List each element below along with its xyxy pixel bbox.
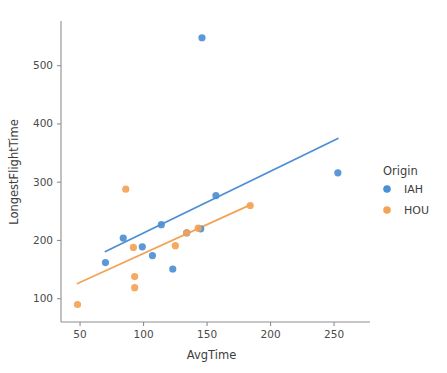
y-tick-label: 200 xyxy=(33,234,53,246)
y-tick-label: 400 xyxy=(33,117,53,129)
data-point-hou xyxy=(122,186,129,193)
y-axis-ticks: 100200300400500 xyxy=(33,59,61,304)
y-axis-label: LongestFlightTime xyxy=(7,119,21,225)
data-point-iah xyxy=(149,252,156,259)
y-tick-label: 100 xyxy=(33,292,53,304)
data-point-hou xyxy=(74,301,81,308)
x-tick-label: 200 xyxy=(261,328,281,340)
y-tick-label: 500 xyxy=(33,59,53,71)
data-point-hou xyxy=(130,244,137,251)
data-point-iah xyxy=(198,34,205,41)
legend: Origin IAHHOU xyxy=(383,164,429,217)
data-point-iah xyxy=(139,243,146,250)
data-point-hou xyxy=(131,273,138,280)
legend-label-iah[interactable]: IAH xyxy=(404,183,423,196)
legend-marker-iah[interactable] xyxy=(383,185,391,193)
trend-line-iah xyxy=(105,139,337,252)
x-tick-label: 150 xyxy=(197,328,217,340)
data-point-iah xyxy=(158,221,165,228)
data-point-iah xyxy=(102,259,109,266)
x-tick-label: 50 xyxy=(73,328,86,340)
x-axis-ticks: 50100150200250 xyxy=(73,322,344,340)
legend-entries: IAHHOU xyxy=(383,183,429,217)
legend-label-hou[interactable]: HOU xyxy=(404,204,429,217)
data-point-hou xyxy=(183,229,190,236)
data-point-hou xyxy=(247,202,254,209)
trend-lines xyxy=(78,139,338,284)
legend-title: Origin xyxy=(383,164,418,178)
data-point-hou xyxy=(131,284,138,291)
data-point-iah xyxy=(120,235,127,242)
trend-line-hou xyxy=(78,205,251,284)
data-point-hou xyxy=(172,242,179,249)
data-point-iah xyxy=(334,169,341,176)
data-point-iah xyxy=(212,192,219,199)
chart-canvas: 100200300400500 50100150200250 AvgTime L… xyxy=(0,0,447,373)
data-point-hou xyxy=(195,225,202,232)
x-tick-label: 100 xyxy=(134,328,154,340)
x-axis-label: AvgTime xyxy=(187,348,236,362)
x-tick-label: 250 xyxy=(324,328,344,340)
scatter-plot-figure: 100200300400500 50100150200250 AvgTime L… xyxy=(0,0,447,373)
data-point-iah xyxy=(169,265,176,272)
legend-marker-hou[interactable] xyxy=(383,206,391,214)
y-tick-label: 300 xyxy=(33,176,53,188)
